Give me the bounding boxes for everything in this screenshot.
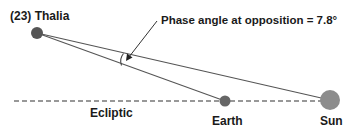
earth-label: Earth — [212, 115, 243, 127]
phase-angle-annotation: Phase angle at opposition = 7.8° — [161, 15, 337, 27]
earth-body — [220, 96, 231, 107]
asteroid-label: (23) Thalia — [10, 10, 69, 22]
annotation-arrow-line — [129, 21, 157, 57]
ecliptic-label: Ecliptic — [90, 107, 133, 119]
sun-label: Sun — [320, 115, 343, 127]
thalia-sun-line — [37, 33, 330, 100]
thalia-earth-line — [37, 33, 225, 101]
thalia-body — [31, 27, 43, 39]
sun-body — [320, 90, 340, 110]
